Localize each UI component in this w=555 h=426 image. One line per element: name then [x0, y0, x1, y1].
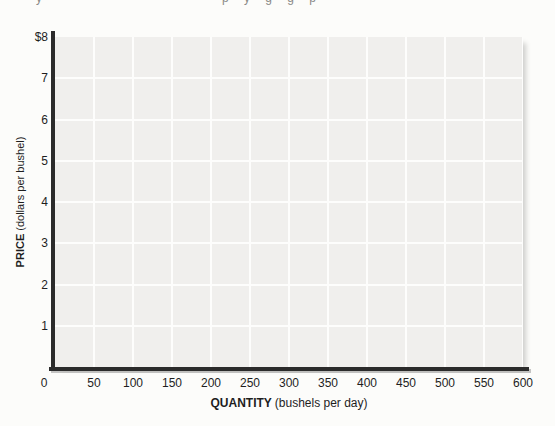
x-axis-title: QUANTITY(bushels per day)	[55, 396, 523, 410]
y-axis-title-units: (dollars per bushel)	[14, 137, 26, 231]
y-tick-label: 6	[0, 112, 48, 128]
x-tick-label: 0	[41, 375, 48, 391]
top-cropped-text: yp y g g p	[0, 0, 555, 5]
x-axis-title-word: QUANTITY	[210, 396, 271, 410]
y-tick-label: $8	[0, 29, 48, 45]
x-tick-label: 50	[87, 375, 100, 391]
y-tick-label: 3	[0, 235, 48, 251]
gridline-horizontal	[55, 242, 523, 244]
figure: yp y g g p PRICE(dollars per bushel) $87…	[0, 0, 555, 426]
gridline-horizontal	[55, 325, 523, 327]
x-tick-label: 300	[279, 375, 299, 391]
y-tick-label: 1	[0, 318, 48, 334]
gridline-horizontal	[55, 77, 523, 79]
cropped-text-fragment: y	[36, 0, 47, 5]
x-tick-label: 400	[357, 375, 377, 391]
x-tick-label: 550	[474, 375, 494, 391]
y-tick-label: 7	[0, 70, 48, 86]
x-tick-label: 600	[513, 375, 533, 391]
x-axis-line	[49, 367, 529, 371]
y-tick-label: 2	[0, 277, 48, 293]
plot-area	[55, 37, 523, 367]
x-tick-label: 250	[240, 375, 260, 391]
cropped-text-fragment: p y g g p	[222, 0, 321, 5]
y-tick-label: 5	[0, 153, 48, 169]
x-tick-label: 450	[396, 375, 416, 391]
x-tick-label: 150	[162, 375, 182, 391]
x-tick-label: 350	[318, 375, 338, 391]
gridline-horizontal	[55, 284, 523, 286]
y-tick-label: 4	[0, 194, 48, 210]
x-tick-label: 200	[201, 375, 221, 391]
x-tick-label: 500	[435, 375, 455, 391]
x-tick-label: 100	[123, 375, 143, 391]
gridline-horizontal	[55, 201, 523, 203]
x-axis-title-units: (bushels per day)	[275, 396, 368, 410]
gridline-horizontal	[55, 119, 523, 121]
gridline-horizontal	[55, 160, 523, 162]
y-axis-line	[51, 31, 55, 371]
